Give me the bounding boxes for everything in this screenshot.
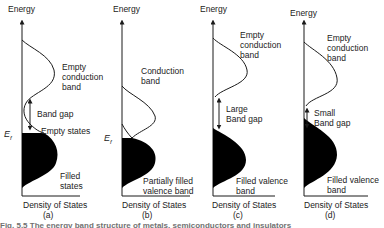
panel-tag: (a)	[43, 210, 53, 220]
energy-axis-label: Energy	[290, 8, 317, 18]
panel-tag: (c)	[233, 210, 243, 220]
fermi-level-label: Ef	[4, 129, 12, 141]
filled-states-region	[22, 133, 58, 188]
conduction-band-curve	[122, 86, 155, 138]
dos-axis-label: Density of States	[212, 200, 276, 210]
conduction-band-curve	[22, 40, 54, 133]
energy-axis-label: Energy	[8, 4, 35, 14]
fermi-level-label: Ef	[104, 133, 112, 145]
energy-axis-label: Energy	[200, 4, 227, 14]
upper-band-label: Empty conduction band	[240, 30, 281, 60]
figure-caption: Fig. 5.5 The energy band structure of me…	[0, 221, 291, 228]
dos-axis-label: Density of States	[23, 200, 87, 210]
empty-states-label: Empty states	[41, 126, 90, 136]
lower-band-label: Filled states	[60, 171, 83, 191]
upper-band-label: Conduction band	[141, 66, 184, 86]
band-gap-label: Small Band gap	[314, 108, 350, 128]
dos-axis-label: Density of States	[122, 200, 186, 210]
upper-band-label: Empty conduction band	[327, 33, 368, 63]
lower-band-label: Filled valence band	[327, 175, 379, 195]
band-gap-label: Large Band gap	[226, 104, 262, 124]
energy-axis-label: Energy	[113, 4, 140, 14]
panel-tag: (b)	[142, 210, 152, 220]
panel-tag: (d)	[325, 210, 335, 220]
lower-band-label: Partially filled valence band	[143, 176, 194, 196]
lower-band-label: Filled valence band	[236, 176, 288, 196]
band-gap-label: Band gap	[37, 109, 73, 119]
upper-band-label: Empty conduction band	[62, 62, 103, 92]
panel-b	[122, 22, 190, 196]
dos-axis-label: Density of States	[304, 200, 368, 210]
